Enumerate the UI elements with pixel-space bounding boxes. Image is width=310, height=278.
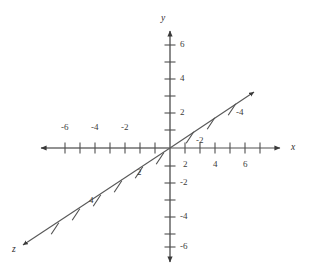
z-axis-line-positive [23, 148, 170, 245]
y-axis-label: y [161, 14, 165, 24]
y-tick-label-pos-2: 2 [180, 108, 185, 117]
z-tick-label-pos-4: 4 [89, 196, 94, 205]
z-tick-label-pos-2: 2 [137, 168, 142, 177]
y-tick-label-neg-2: -2 [180, 178, 188, 187]
coordinate-axes-figure: -6 -4 -2 2 4 6 6 4 2 -2 -4 -6 -2 -4 2 4 … [0, 0, 310, 278]
z-axis-label: z [12, 245, 16, 255]
y-tick-label-pos-4: 4 [180, 74, 185, 83]
y-axis-group [165, 31, 176, 262]
z-axis-ticks [51, 104, 236, 234]
y-tick-label-neg-4: -4 [180, 212, 188, 221]
y-tick-label-pos-6: 6 [180, 40, 185, 49]
x-tick-label-pos-6: 6 [243, 160, 248, 169]
x-axis-label: x [291, 143, 295, 153]
x-tick-label-neg-4: -4 [91, 123, 99, 132]
x-tick-label-pos-4: 4 [213, 160, 218, 169]
x-axis-group [41, 143, 280, 154]
y-tick-label-neg-6: -6 [180, 242, 188, 251]
z-tick-label-neg-4: -4 [236, 108, 244, 117]
axes-drawing [0, 0, 310, 278]
x-tick-label-pos-2: 2 [183, 160, 188, 169]
x-tick-label-neg-2: -2 [121, 123, 129, 132]
z-axis-line-negative [170, 92, 254, 148]
z-tick-label-neg-2: -2 [196, 136, 204, 145]
x-tick-label-neg-6: -6 [61, 123, 69, 132]
